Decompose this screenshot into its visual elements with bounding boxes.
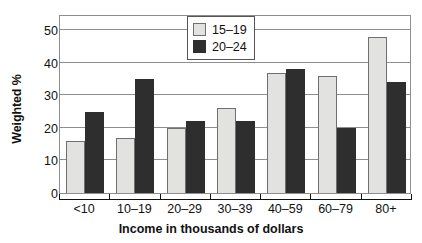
bar	[387, 82, 406, 193]
y-axis-tick-label: 30	[18, 89, 58, 103]
bar	[337, 128, 356, 193]
bar	[217, 108, 236, 193]
bar	[318, 76, 337, 193]
bar	[236, 121, 255, 193]
bar	[116, 138, 135, 193]
bar	[186, 121, 205, 193]
bar	[66, 141, 85, 193]
bar	[286, 69, 305, 193]
x-axis-title: Income in thousands of dollars	[0, 222, 422, 236]
bar	[135, 79, 154, 193]
y-axis-tick-label: 20	[18, 122, 58, 136]
bar-group	[311, 16, 361, 193]
legend-label: 20–24	[212, 40, 247, 54]
legend-label: 15–19	[212, 23, 247, 37]
x-axis-tick	[160, 194, 161, 200]
bar	[267, 73, 286, 193]
bar	[368, 37, 387, 193]
bar-group	[261, 16, 311, 193]
x-axis-tick	[310, 194, 311, 200]
y-axis-tick-label: 10	[18, 154, 58, 168]
x-axis-tick	[411, 194, 412, 200]
x-axis-tick	[210, 194, 211, 200]
x-axis-tick	[59, 194, 60, 200]
x-axis-tick	[109, 194, 110, 200]
x-axis-tick	[361, 194, 362, 200]
bar-group	[60, 16, 110, 193]
y-axis-tick-label: 40	[18, 57, 58, 71]
y-axis-tick-label: 50	[18, 24, 58, 38]
chart-legend: 15–1920–24	[187, 16, 255, 60]
bar-chart-figure: Weighted % 01020304050 <1010–1920–2930–3…	[0, 0, 422, 243]
y-axis-tick-label: 0	[18, 187, 58, 201]
bar	[167, 128, 186, 193]
bar-group	[362, 16, 412, 193]
legend-item: 15–19	[193, 21, 247, 38]
legend-swatch	[193, 23, 206, 36]
bar	[85, 112, 104, 193]
x-axis-line	[59, 199, 411, 200]
bar-group	[110, 16, 160, 193]
x-axis-tick	[260, 194, 261, 200]
x-axis-tick-label: 80+	[351, 202, 421, 216]
legend-swatch	[193, 40, 206, 53]
legend-item: 20–24	[193, 38, 247, 55]
